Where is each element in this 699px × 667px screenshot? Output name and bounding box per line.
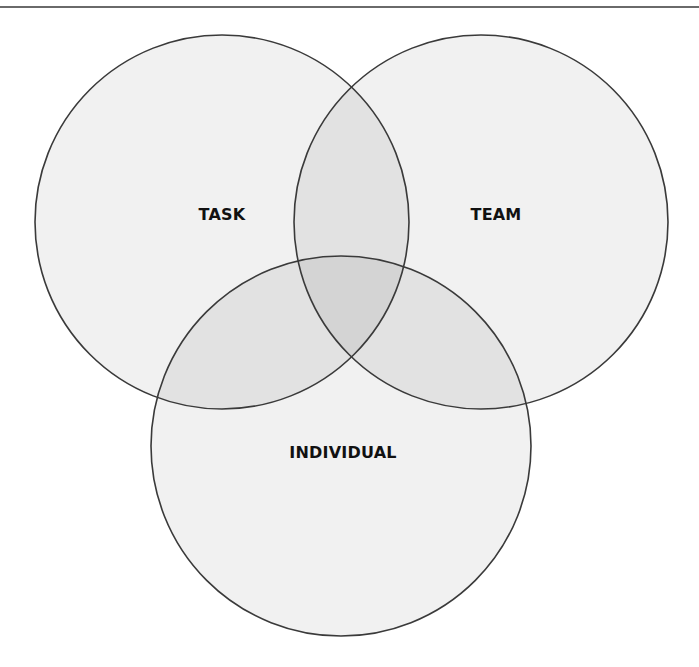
task-label: TASK <box>199 205 246 224</box>
team-label: TEAM <box>471 205 522 224</box>
venn-diagram <box>0 0 699 667</box>
individual-label: INDIVIDUAL <box>289 443 396 462</box>
